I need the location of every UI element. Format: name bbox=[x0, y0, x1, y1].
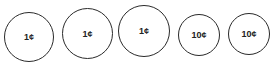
coin-10-cent: 10¢ bbox=[228, 13, 270, 55]
coin-1-cent: 1¢ bbox=[4, 12, 54, 62]
coin-10-cent: 10¢ bbox=[178, 14, 220, 56]
coin-label: 1¢ bbox=[24, 32, 34, 42]
coin-1-cent: 1¢ bbox=[62, 8, 113, 59]
coin-label: 10¢ bbox=[191, 30, 206, 40]
coin-label: 10¢ bbox=[241, 29, 256, 39]
coin-label: 1¢ bbox=[82, 29, 92, 39]
coin-1-cent: 1¢ bbox=[118, 5, 170, 57]
coin-label: 1¢ bbox=[139, 26, 149, 36]
